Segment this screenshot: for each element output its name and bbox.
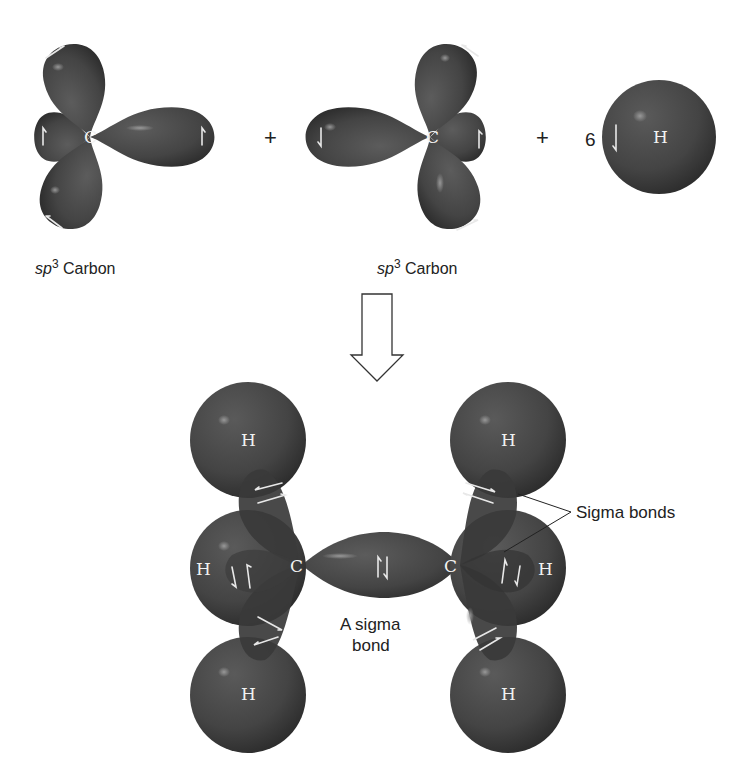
hydrogen-atom-label: H xyxy=(501,430,516,450)
hydrogen-atom-label: H xyxy=(196,559,211,579)
cc-sigma-bond-label-line1: A sigma xyxy=(340,615,401,634)
ethane-molecule: H H H H H H C C xyxy=(190,382,571,753)
sp3-carbon-caption-left: sp3 Carbon xyxy=(35,257,116,278)
sigma-bonds-callout: Sigma bonds xyxy=(576,503,675,522)
sp3-carbon-caption-right: sp3 Carbon xyxy=(377,257,458,278)
carbon-atom-label: C xyxy=(290,556,303,576)
ethane-formation-diagram: C + C + 6 H xyxy=(0,0,739,771)
hydrogen-atom: H xyxy=(602,80,716,194)
carbon-atom-label: C xyxy=(84,127,97,147)
caption-text: Carbon xyxy=(401,260,458,277)
hydrogen-atom-label: H xyxy=(501,684,516,704)
cc-sigma-bond-label-line2: bond xyxy=(352,636,390,655)
hydrogen-atom-label: H xyxy=(653,127,668,147)
sp3-carbon-right: C xyxy=(306,37,489,237)
cc-sigma-bond-orbital xyxy=(302,532,460,598)
caption-italic: sp xyxy=(35,260,52,277)
carbon-atom-label: C xyxy=(444,556,457,576)
caption-superscript: 3 xyxy=(394,257,401,271)
plus-sign: + xyxy=(536,125,549,150)
caption-italic: sp xyxy=(377,260,394,277)
plus-sign: + xyxy=(264,125,277,150)
hydrogen-atom-label: H xyxy=(538,559,553,579)
carbon-atom-label: C xyxy=(426,127,439,147)
hydrogen-atom-label: H xyxy=(241,684,256,704)
hydrogen-atom-label: H xyxy=(241,430,256,450)
caption-superscript: 3 xyxy=(52,257,59,271)
hollow-down-arrow-icon xyxy=(351,294,403,381)
sp3-carbon-left: C xyxy=(32,37,215,237)
hydrogen-coefficient: 6 xyxy=(585,129,596,150)
caption-text: Carbon xyxy=(59,260,116,277)
